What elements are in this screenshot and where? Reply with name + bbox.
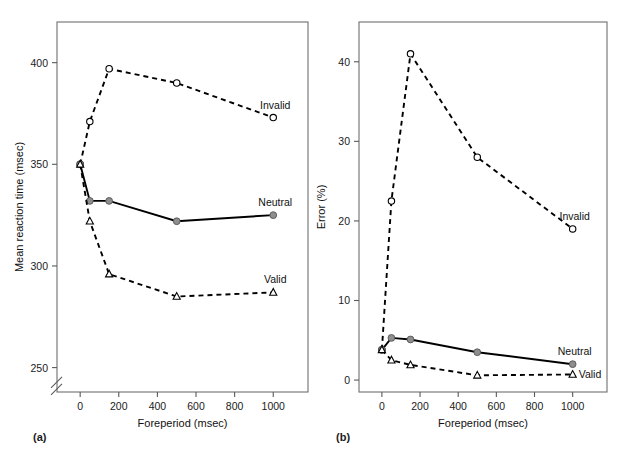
plot-frame — [359, 22, 607, 392]
data-point-neutral — [173, 218, 180, 225]
data-point-invalid — [388, 198, 394, 204]
data-point-invalid — [270, 114, 276, 120]
data-point-invalid — [106, 66, 112, 72]
data-point-valid — [106, 270, 113, 277]
panel-label: (b) — [336, 431, 350, 443]
x-tick-label: 400 — [149, 400, 167, 412]
series-line-invalid — [382, 54, 573, 350]
data-point-neutral — [106, 198, 113, 205]
series-label-valid: Valid — [264, 273, 287, 285]
y-axis-title: Mean reaction time (msec) — [13, 142, 25, 272]
y-tick-label: 0 — [344, 374, 350, 386]
x-tick-label: 200 — [110, 400, 128, 412]
panel_b-plot: 02004006008001000010203040Foreperiod (ms… — [315, 22, 607, 429]
x-tick-label: 600 — [187, 400, 205, 412]
series-label-neutral: Neutral — [558, 345, 592, 357]
y-tick-label: 30 — [338, 135, 350, 147]
x-tick-label: 1000 — [262, 400, 286, 412]
y-axis-title: Error (%) — [315, 185, 327, 230]
series-label-valid: Valid — [579, 368, 602, 380]
x-tick-label: 400 — [449, 400, 467, 412]
data-point-invalid — [569, 226, 575, 232]
series-label-neutral: Neutral — [258, 196, 292, 208]
series-line-neutral — [80, 164, 273, 221]
data-point-neutral — [388, 334, 395, 341]
panel-label: (a) — [33, 431, 47, 443]
series-label-invalid: Invalid — [260, 99, 291, 111]
data-point-valid — [569, 371, 576, 378]
y-tick-label: 250 — [30, 362, 48, 374]
x-tick-label: 600 — [488, 400, 506, 412]
x-tick-label: 1000 — [561, 400, 585, 412]
y-tick-label: 40 — [338, 56, 350, 68]
data-point-invalid — [87, 118, 93, 124]
series-label-invalid: Invalid — [559, 210, 590, 222]
y-tick-label: 10 — [338, 294, 350, 306]
x-axis-title: Foreperiod (msec) — [438, 417, 528, 429]
data-point-invalid — [474, 154, 480, 160]
x-axis-title: Foreperiod (msec) — [138, 417, 228, 429]
data-point-valid — [86, 217, 93, 224]
x-tick-label: 200 — [411, 400, 429, 412]
y-tick-label: 20 — [338, 215, 350, 227]
data-point-invalid — [407, 51, 413, 57]
x-tick-label: 800 — [526, 400, 544, 412]
x-tick-label: 0 — [77, 400, 83, 412]
data-point-neutral — [474, 349, 481, 356]
y-tick-label: 300 — [30, 260, 48, 272]
data-point-neutral — [270, 212, 277, 219]
data-point-neutral — [569, 361, 576, 368]
x-tick-label: 800 — [226, 400, 244, 412]
panel_a-plot: 02004006008001000250300350400Foreperiod … — [13, 22, 308, 429]
data-point-invalid — [174, 80, 180, 86]
figure-svg: 02004006008001000250300350400Foreperiod … — [0, 0, 619, 463]
figure-container: 02004006008001000250300350400Foreperiod … — [0, 0, 619, 463]
y-tick-label: 400 — [30, 57, 48, 69]
x-tick-label: 0 — [379, 400, 385, 412]
data-point-neutral — [407, 336, 414, 343]
y-tick-label: 350 — [30, 158, 48, 170]
